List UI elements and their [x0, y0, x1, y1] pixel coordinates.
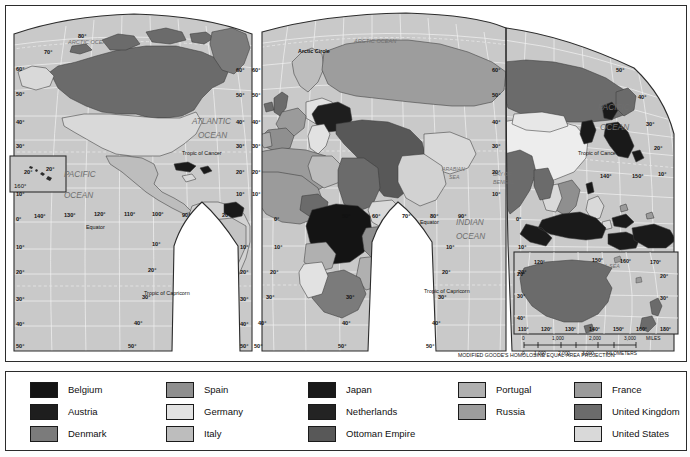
svg-text:30°: 30° [16, 296, 24, 302]
legend-item[interactable]: United States [574, 424, 680, 443]
equator-label: Equator [86, 224, 105, 230]
legend-item[interactable]: Italy [166, 424, 243, 443]
svg-text:30°: 30° [346, 294, 354, 300]
legend-grid: Belgium Austria Denmark Spain [6, 372, 686, 450]
legend-swatch-portugal [458, 382, 486, 398]
svg-text:40°: 40° [240, 321, 248, 327]
projection-note: MODIFIED GOODE'S HOMOLOSINE EQUAL-AREA P… [458, 352, 615, 358]
svg-text:20°: 20° [660, 273, 668, 279]
svg-text:20°: 20° [236, 169, 244, 175]
legend-item[interactable]: France [574, 380, 680, 399]
legend-item[interactable]: Spain [166, 380, 243, 399]
svg-text:0: 0 [522, 336, 525, 341]
legend-item[interactable]: Portugal [458, 380, 531, 399]
legend-column-1: Spain Germany Italy [166, 380, 243, 446]
svg-text:160°: 160° [620, 258, 631, 264]
svg-text:10°: 10° [518, 244, 526, 250]
ocean-label: BENGAL [493, 179, 514, 185]
svg-text:30°: 30° [252, 143, 260, 149]
arctic-circle-label: Arctic Circle [298, 48, 330, 54]
legend-column-2: Japan Netherlands Ottoman Empire [308, 380, 415, 446]
svg-text:50°: 50° [342, 213, 350, 219]
svg-text:40°: 40° [134, 320, 142, 326]
svg-text:20°: 20° [148, 267, 156, 273]
legend-label: United Kingdom [612, 407, 680, 417]
svg-text:20°: 20° [240, 269, 248, 275]
legend-item[interactable]: Austria [30, 402, 107, 421]
world-map-panel: 160° [5, 5, 687, 362]
svg-text:90°: 90° [458, 213, 466, 219]
svg-text:40°: 40° [638, 94, 646, 100]
svg-text:0°: 0° [516, 216, 521, 222]
ocean-label: ARCTIC OCEAN [67, 39, 111, 45]
tropic-cancer-label: Tropic of Cancer [182, 150, 222, 156]
hawaii-inset: 160° [10, 156, 66, 192]
svg-text:20°: 20° [654, 145, 662, 151]
svg-text:90°: 90° [182, 212, 190, 218]
legend-item[interactable]: Denmark [30, 424, 107, 443]
svg-text:130°: 130° [565, 326, 576, 332]
legend-item[interactable]: Russia [458, 402, 531, 421]
svg-text:10°: 10° [236, 191, 244, 197]
svg-text:40°: 40° [258, 320, 266, 326]
svg-text:60°: 60° [372, 213, 380, 219]
tropic-capricorn-label: Tropic of Capricorn [424, 288, 470, 294]
legend-label: Netherlands [346, 407, 397, 417]
svg-text:30°: 30° [517, 293, 525, 299]
svg-text:MILES: MILES [646, 336, 660, 341]
legend-swatch-france [574, 382, 602, 398]
svg-text:50°: 50° [16, 343, 24, 349]
svg-text:1,000: 1,000 [552, 336, 564, 341]
svg-text:50°: 50° [128, 343, 136, 349]
svg-text:40°: 40° [252, 119, 260, 125]
legend-label: Germany [204, 407, 243, 417]
ocean-label: OCEAN [456, 232, 485, 241]
svg-text:20°: 20° [517, 271, 525, 277]
legend-label: United States [612, 429, 669, 439]
svg-text:10°: 10° [252, 191, 260, 197]
svg-text:60°: 60° [492, 67, 500, 73]
svg-text:30°: 30° [16, 143, 24, 149]
svg-text:40°: 40° [517, 315, 525, 321]
svg-text:60°: 60° [252, 67, 260, 73]
svg-text:50°: 50° [338, 343, 346, 349]
svg-text:130°: 130° [64, 212, 76, 218]
legend-label: Japan [346, 385, 372, 395]
legend-label: Austria [68, 407, 98, 417]
svg-text:50°: 50° [616, 67, 624, 73]
ocean-label: ARABIAN [441, 166, 465, 172]
tropic-cancer-label: Tropic of Cancer [578, 150, 618, 156]
svg-text:10°: 10° [16, 244, 24, 250]
svg-text:2,000: 2,000 [589, 336, 601, 341]
svg-text:20°: 20° [270, 269, 278, 275]
legend-item[interactable]: Netherlands [308, 402, 415, 421]
legend-item[interactable]: Germany [166, 402, 243, 421]
svg-text:140°: 140° [34, 213, 46, 219]
svg-text:50°: 50° [254, 343, 262, 349]
svg-text:10°: 10° [152, 241, 160, 247]
svg-text:10°: 10° [446, 244, 454, 250]
svg-text:60°: 60° [236, 67, 244, 73]
svg-text:40°: 40° [432, 320, 440, 326]
svg-text:120°: 120° [94, 211, 106, 217]
svg-text:120°: 120° [534, 259, 545, 265]
svg-text:180°: 180° [660, 326, 671, 332]
legend-item[interactable]: Ottoman Empire [308, 424, 415, 443]
legend-label: France [612, 385, 642, 395]
legend-item[interactable]: United Kingdom [574, 402, 680, 421]
svg-text:20°: 20° [252, 169, 260, 175]
svg-text:110°: 110° [518, 326, 529, 332]
legend-item[interactable]: Japan [308, 380, 415, 399]
legend-label: Denmark [68, 429, 107, 439]
svg-text:120°: 120° [541, 326, 552, 332]
legend-swatch-austria [30, 404, 58, 420]
svg-text:150°: 150° [632, 173, 644, 179]
legend-item[interactable]: Belgium [30, 380, 107, 399]
svg-text:50°: 50° [16, 91, 24, 97]
svg-text:20°: 20° [16, 269, 24, 275]
legend-column-4: France United Kingdom United States [574, 380, 680, 446]
legend-swatch-russia [458, 404, 486, 420]
svg-text:30°: 30° [240, 296, 248, 302]
svg-text:70°: 70° [402, 213, 410, 219]
ocean-label: INDIAN [456, 218, 484, 227]
